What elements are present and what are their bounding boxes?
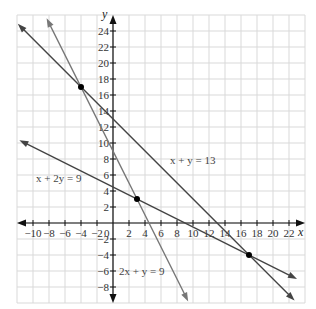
intersection-point — [134, 196, 140, 202]
coordinate-plane: −10−8−6−4−224681012141618202224222018161… — [0, 0, 316, 309]
svg-text:4: 4 — [104, 185, 110, 197]
svg-text:6: 6 — [104, 169, 110, 181]
svg-text:18: 18 — [98, 73, 110, 85]
x-axis-left-arrow-icon — [17, 220, 26, 227]
y-axis-up-arrow-icon — [110, 15, 117, 24]
y-axis-label: y — [101, 7, 108, 21]
svg-text:24: 24 — [98, 25, 110, 37]
svg-text:−6: −6 — [59, 227, 71, 239]
svg-text:−6: −6 — [97, 265, 109, 277]
svg-text:14: 14 — [98, 105, 110, 117]
svg-text:16: 16 — [98, 89, 110, 101]
svg-text:18: 18 — [252, 227, 264, 239]
svg-text:2: 2 — [126, 227, 132, 239]
intersection-point — [246, 252, 252, 258]
svg-text:8: 8 — [174, 227, 180, 239]
y-axis-down-arrow-icon — [110, 294, 117, 303]
svg-text:20: 20 — [268, 227, 280, 239]
svg-text:−10: −10 — [24, 227, 42, 239]
svg-text:10: 10 — [98, 137, 110, 149]
origin-label: 0 — [104, 227, 110, 239]
svg-text:14: 14 — [220, 227, 232, 239]
grid — [17, 15, 305, 303]
svg-text:16: 16 — [236, 227, 248, 239]
x-axis-label: x — [297, 225, 304, 239]
label-x-plus-2y-9: x + 2y = 9 — [36, 172, 82, 184]
svg-text:8: 8 — [104, 153, 110, 165]
svg-text:22: 22 — [284, 227, 295, 239]
svg-text:−8: −8 — [97, 281, 109, 293]
svg-text:−8: −8 — [43, 227, 55, 239]
svg-text:20: 20 — [98, 57, 110, 69]
svg-text:−4: −4 — [97, 249, 109, 261]
lines — [18, 18, 297, 301]
line-arrow-icon — [181, 292, 188, 301]
label-2x-plus-y-9: 2x + y = 9 — [119, 265, 165, 277]
svg-text:22: 22 — [98, 41, 109, 53]
svg-text:6: 6 — [158, 227, 164, 239]
svg-text:2: 2 — [104, 201, 110, 213]
label-x-plus-y-13: x + y = 13 — [170, 154, 216, 166]
svg-text:4: 4 — [142, 227, 148, 239]
line-arrow-icon — [19, 140, 28, 147]
intersection-point — [78, 84, 84, 90]
svg-text:−4: −4 — [75, 227, 87, 239]
line-arrow-icon — [47, 18, 54, 27]
